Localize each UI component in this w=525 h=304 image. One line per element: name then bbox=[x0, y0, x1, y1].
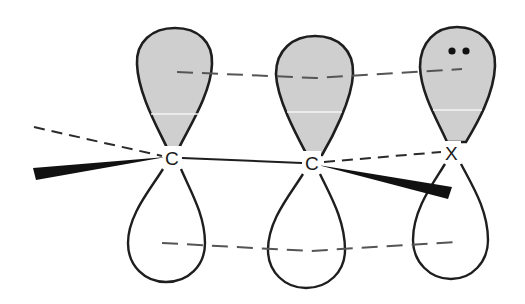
bottom-lobe-x bbox=[413, 164, 488, 279]
lone-pair-dot-1 bbox=[448, 47, 455, 54]
c-c-sigma-bond bbox=[182, 158, 302, 163]
top-lobe-left bbox=[137, 28, 212, 150]
left-wedge-bond bbox=[33, 157, 166, 180]
lone-pair-dot-2 bbox=[462, 47, 469, 54]
right-wedge-bond bbox=[318, 165, 452, 199]
top-lobe-middle bbox=[276, 36, 353, 155]
orbital-diagram: C C X bbox=[0, 0, 525, 304]
atom-label-x: X bbox=[445, 143, 458, 164]
bottom-lobe-left bbox=[128, 169, 205, 282]
c-x-dashed-bond bbox=[324, 152, 441, 162]
bottom-lobe-middle bbox=[268, 174, 345, 288]
top-lobe-x bbox=[420, 27, 495, 142]
atom-label-carbon-2: C bbox=[305, 153, 319, 174]
left-dashed-bond bbox=[34, 127, 162, 156]
atom-label-carbon-1: C bbox=[165, 148, 179, 169]
